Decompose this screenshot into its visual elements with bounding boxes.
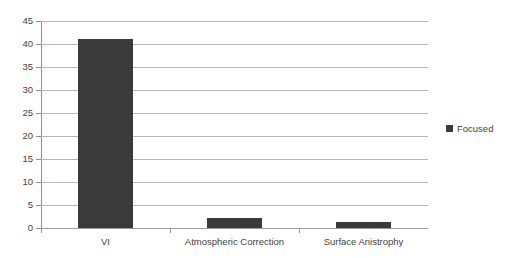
bar-surface-anistrophy[interactable] [336,222,391,228]
bar-atmospheric-correction[interactable] [207,218,262,228]
x-axis-tick-0 [41,228,42,233]
y-axis-tick-labels: 051015202530354045 [0,0,33,258]
y-axis-label-20: 20 [3,131,33,141]
legend: Focused [446,123,493,134]
x-axis-tick-1 [170,228,171,233]
x-axis-label-surface-anistrophy: Surface Anistrophy [299,236,428,248]
y-axis-label-15: 15 [3,154,33,164]
y-axis-label-35: 35 [3,62,33,72]
gridline-0 [41,228,428,229]
y-axis-label-0: 0 [3,223,33,233]
cropped-title-sliver [38,0,178,3]
x-axis-tick-2 [299,228,300,233]
y-axis-tick-20 [36,136,41,137]
bar-chart: 051015202530354045 Focused VIAtmospheric… [0,0,511,258]
y-axis-tick-45 [36,21,41,22]
y-axis-tick-35 [36,67,41,68]
x-axis-label-vi: VI [41,236,170,248]
y-axis-label-10: 10 [3,177,33,187]
y-axis-tick-30 [36,90,41,91]
y-axis-tick-5 [36,205,41,206]
y-axis-label-25: 25 [3,108,33,118]
y-axis-tick-10 [36,182,41,183]
legend-label-focused: Focused [457,123,493,134]
gridline-45 [41,21,428,22]
y-axis-label-30: 30 [3,85,33,95]
y-axis-tick-40 [36,44,41,45]
y-axis-label-5: 5 [3,200,33,210]
y-axis-tick-15 [36,159,41,160]
plot-area [41,21,428,228]
y-axis-label-45: 45 [3,16,33,26]
legend-swatch-focused [446,125,453,132]
bar-vi[interactable] [78,39,133,228]
y-axis-label-40: 40 [3,39,33,49]
x-axis-label-atmospheric-correction: Atmospheric Correction [170,236,299,248]
y-axis-tick-25 [36,113,41,114]
